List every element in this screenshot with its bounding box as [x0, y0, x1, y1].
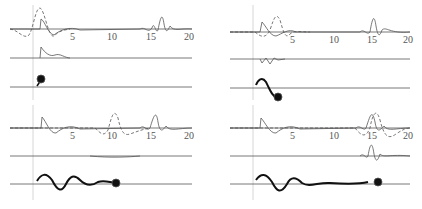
tick-15: 15 [146, 31, 156, 42]
panel-top-left [10, 5, 192, 100]
tick-10: 10 [107, 31, 117, 42]
panel-bottom-left [10, 105, 192, 200]
tick-10: 10 [329, 34, 339, 45]
panel-top-right [230, 5, 410, 101]
tick-5: 5 [70, 130, 75, 141]
tick-10: 10 [107, 130, 117, 141]
panel-bottom-right [230, 105, 410, 200]
tick-5: 5 [290, 130, 295, 141]
tick-15: 15 [367, 34, 377, 45]
tick-5: 5 [70, 31, 75, 42]
figure: 5 10 15 20 5 10 15 20 5 10 15 20 5 10 15… [0, 0, 422, 209]
tick-10: 10 [329, 130, 339, 141]
tick-20: 20 [403, 34, 413, 45]
tick-15: 15 [146, 130, 156, 141]
tick-20: 20 [403, 130, 413, 141]
ticks-bottom-left: 5 10 15 20 [70, 130, 194, 141]
tick-20: 20 [184, 31, 194, 42]
ticks-top-left: 5 10 15 20 [70, 31, 194, 42]
ticks-top-right: 5 10 15 20 [290, 34, 413, 45]
tick-15: 15 [367, 130, 377, 141]
tick-20: 20 [184, 130, 194, 141]
ticks-bottom-right: 5 10 15 20 [290, 130, 413, 141]
tick-5: 5 [290, 34, 295, 45]
